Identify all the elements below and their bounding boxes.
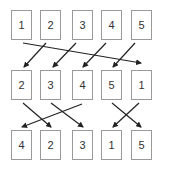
row2-box-4: 5 xyxy=(101,70,122,100)
row3-box-1: 4 xyxy=(11,130,32,160)
arrow-mid2-to-bot3 xyxy=(51,103,83,127)
row1-box-1: 1 xyxy=(11,10,32,40)
row1-box-4: 4 xyxy=(101,10,122,40)
row3-box-5: 5 xyxy=(131,130,152,160)
row3-box-2: 2 xyxy=(40,130,61,160)
arrow-5-to-pos4 xyxy=(113,43,135,67)
arrow-mid1-to-bot2 xyxy=(23,103,51,127)
row2-box-1: 2 xyxy=(11,70,32,100)
row2-box-2: 3 xyxy=(40,70,61,100)
row3-box-3: 3 xyxy=(72,130,93,160)
arrow-2-to-pos1 xyxy=(24,43,46,67)
row2-box-3: 4 xyxy=(72,70,93,100)
arrow-1-to-pos5 xyxy=(23,43,141,63)
row1-box-3: 3 xyxy=(72,10,93,40)
row1-box-5: 5 xyxy=(131,10,152,40)
row3-box-4: 1 xyxy=(101,130,122,160)
arrow-mid3-to-bot1 xyxy=(22,104,82,127)
arrow-3-to-pos2 xyxy=(53,43,76,67)
row1-box-2: 2 xyxy=(40,10,61,40)
row2-box-5: 1 xyxy=(131,70,152,100)
arrow-4-to-pos3 xyxy=(83,43,106,67)
